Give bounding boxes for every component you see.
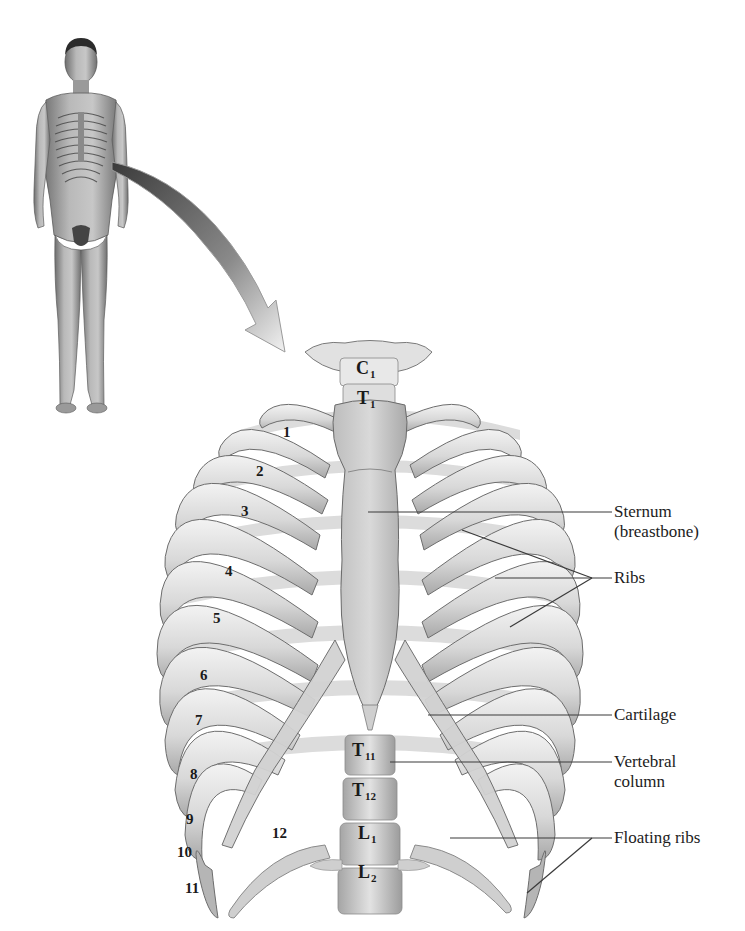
vertebra-label-t12: T12 — [352, 781, 376, 805]
pointer-arrow — [112, 162, 285, 352]
human-figure-inset — [34, 38, 128, 413]
rib-number-11: 11 — [185, 880, 199, 896]
label-floating-ribs: Floating ribs — [614, 828, 700, 848]
rib-number-5: 5 — [213, 610, 221, 626]
rib-number-1: 1 — [283, 424, 291, 440]
label-column: column — [614, 772, 665, 792]
label-ribs: Ribs — [614, 568, 645, 588]
vertebra-label-t1: T1 — [357, 389, 376, 413]
rib-number-9: 9 — [186, 811, 194, 827]
label-cartilage: Cartilage — [614, 705, 676, 725]
rib-number-4: 4 — [225, 563, 233, 579]
rib-number-7: 7 — [195, 712, 203, 728]
rib-number-8: 8 — [190, 766, 198, 782]
rib-cage-diagram: C1 T1 T11 T12 L1 L2 1 2 3 4 5 6 7 8 9 10… — [0, 0, 745, 931]
vertebra-label-c1: C1 — [356, 359, 376, 383]
vertebra-label-t11: T11 — [352, 741, 375, 765]
vertebra-label-l2: L2 — [358, 863, 377, 887]
vertebra-label-l1: L1 — [358, 824, 377, 848]
label-sternum: Sternum — [614, 502, 672, 522]
rib-number-3: 3 — [241, 503, 249, 519]
rib-number-10: 10 — [177, 844, 192, 860]
label-vertebral: Vertebral — [614, 752, 676, 772]
rib-number-2: 2 — [256, 463, 264, 479]
rib-number-6: 6 — [200, 667, 208, 683]
label-breastbone: (breastbone) — [614, 522, 699, 542]
rib-number-12: 12 — [272, 825, 287, 841]
